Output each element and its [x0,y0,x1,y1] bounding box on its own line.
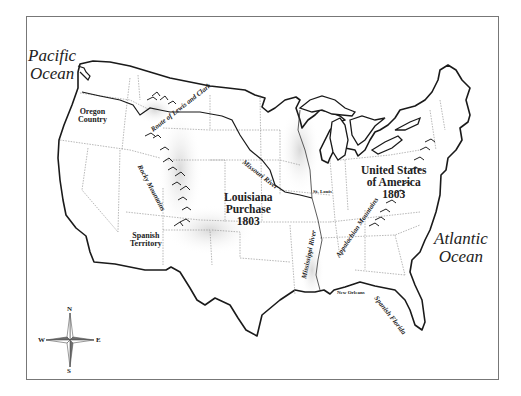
compass-west: W [38,336,45,344]
united-states-label: United States of America 1803 [361,164,427,200]
louisiana-line-3: 1803 [224,215,273,227]
spanish-territory-label: Spanish Territory [130,232,162,249]
louisiana-line-1: Louisiana [224,191,273,203]
atlantic-line-1: Atlantic [434,230,488,248]
new-orleans-label: New Orleans [337,290,365,295]
compass-east: E [96,336,101,344]
louisiana-line-2: Purchase [224,203,273,215]
compass-rose [46,313,94,367]
st-louis-label: St. Louis [313,189,332,194]
compass-north: N [67,305,72,313]
spanish-territory-line-2: Territory [130,240,162,248]
oregon-country-label: Oregon Country [78,108,107,125]
oregon-line-2: Country [78,116,107,124]
usa-line-2: of America [361,176,427,188]
atlantic-line-2: Ocean [434,248,488,266]
louisiana-purchase-label: Louisiana Purchase 1803 [224,191,273,227]
usa-line-1: United States [361,164,427,176]
pacific-ocean-label: Pacific Ocean [28,47,76,83]
pacific-line-2: Ocean [28,65,76,83]
compass-south: S [67,367,71,375]
atlantic-ocean-label: Atlantic Ocean [434,230,488,266]
pacific-line-1: Pacific [28,47,76,65]
